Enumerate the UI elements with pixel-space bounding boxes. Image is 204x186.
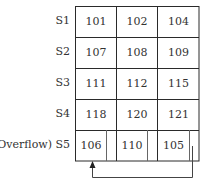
cell-s3-2: 112 bbox=[117, 69, 157, 99]
arrowhead-icon bbox=[90, 161, 96, 168]
cell-s4-3: 121 bbox=[158, 100, 199, 130]
cell-s2-2: 108 bbox=[117, 38, 157, 68]
cell-s5-3: 105 bbox=[158, 131, 189, 161]
cell-s1-3: 104 bbox=[158, 7, 199, 37]
cell-s1-2: 102 bbox=[117, 7, 157, 37]
cell-s2-1: 107 bbox=[76, 38, 116, 68]
cell-s4-2: 120 bbox=[117, 100, 157, 130]
cell-s4-1: 118 bbox=[76, 100, 116, 130]
cell-s1-1: 101 bbox=[76, 7, 116, 37]
cell-s2-3: 109 bbox=[158, 38, 199, 68]
cell-s3-3: 115 bbox=[158, 69, 199, 99]
cell-s3-1: 111 bbox=[76, 69, 116, 99]
cell-s5-1: 106 bbox=[76, 131, 106, 161]
cell-s5-2: 110 bbox=[117, 131, 147, 161]
